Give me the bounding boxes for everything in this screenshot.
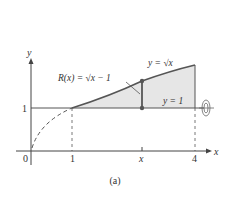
radius-top-point	[140, 79, 144, 83]
tick-label-4: 4	[192, 153, 197, 164]
y-axis-arrow-icon	[29, 58, 34, 64]
rotation-about-y1-icon	[199, 100, 214, 116]
radius-bottom-point	[140, 106, 144, 110]
y-axis-label: y	[26, 47, 32, 58]
solid-of-revolution-diagram: y x 0 1 x 4 1 y = √x y = 1 R(x) = √x − 1…	[0, 0, 231, 197]
curve-label: y = √x	[147, 58, 174, 68]
tick-label-0: 0	[23, 153, 28, 164]
tick-label-x: x	[138, 153, 144, 164]
y-tick-label-1: 1	[22, 103, 27, 114]
x-axis-label: x	[213, 146, 219, 157]
x-axis-arrow-icon	[206, 149, 212, 154]
radius-label: R(x) = √x − 1	[57, 73, 111, 84]
figure-caption: (a)	[109, 175, 120, 187]
tick-label-1: 1	[70, 153, 75, 164]
line-label: y = 1	[162, 96, 183, 106]
curve-sqrt-x-dashed	[32, 108, 72, 148]
